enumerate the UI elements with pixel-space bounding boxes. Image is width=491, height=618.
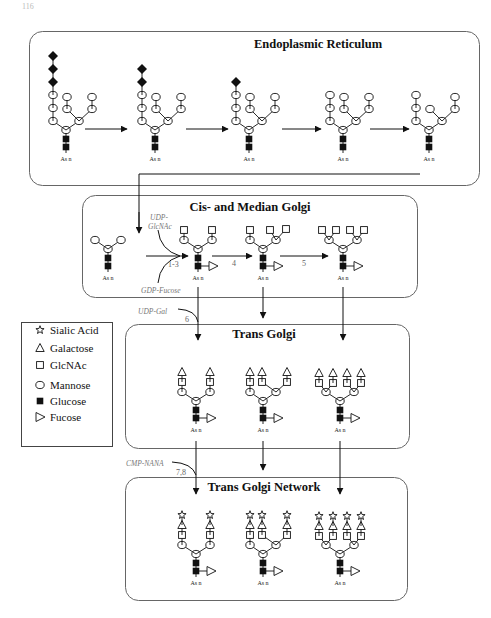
legend-label: GlcNAc (50, 359, 87, 371)
asn-label: As n (257, 275, 268, 281)
fucose-icon (207, 567, 216, 576)
glcnac-icon (283, 226, 290, 233)
mannose-icon (117, 236, 125, 243)
glucose-icon (152, 144, 159, 151)
glycan: As n (246, 226, 290, 281)
glucose-icon (193, 568, 200, 575)
fucose-icon (274, 262, 283, 271)
fucose-icon (354, 262, 363, 271)
mannose-icon (152, 93, 160, 100)
mannose-icon (426, 105, 434, 112)
galactose-icon (329, 369, 337, 377)
sialic-acid-icon (246, 511, 254, 519)
glucose-icon (152, 136, 159, 143)
glcnac-icon (181, 227, 188, 234)
sialic-acid-icon (283, 511, 291, 519)
udp-glcnac-label-1: UDP- (150, 213, 168, 222)
legend-label: Fucose (50, 411, 81, 423)
fucose-icon (351, 414, 360, 423)
glucose-icon (105, 255, 112, 262)
asn-label: As n (102, 275, 113, 281)
glucose-icon (37, 398, 44, 405)
asn-label: As n (337, 275, 348, 281)
asn-label: As n (190, 427, 201, 433)
sialic-acid-icon (36, 326, 44, 334)
galactose-icon (343, 369, 351, 377)
glycan: As n (178, 511, 216, 586)
glcnac-icon (361, 227, 368, 234)
mannose-icon (451, 93, 459, 100)
legend-item: Fucose (36, 411, 81, 423)
trans-golgi-title: Trans Golgi (232, 327, 296, 341)
mannose-icon (365, 93, 373, 100)
udp-glcnac-label-2: GlcNAc (148, 222, 172, 231)
asn-label: As n (334, 427, 345, 433)
step-1-3-label: 1-3 (168, 260, 179, 269)
galactose-icon (258, 368, 266, 376)
mannose-icon (246, 93, 254, 100)
glucose-icon (193, 415, 200, 422)
step-7-8-label: 7,8 (176, 468, 186, 477)
glycan: As n (315, 369, 365, 434)
cis-golgi-title: Cis- and Median Golgi (189, 200, 311, 214)
step-5-label: 5 (302, 259, 306, 268)
fucose-icon (351, 567, 360, 576)
fucose-icon (274, 414, 283, 423)
glycosylation-pathway-diagram: Endoplasmic Reticulum Cis- and Median Go… (0, 0, 491, 618)
asn-label: As n (257, 427, 268, 433)
glucose-icon (340, 255, 347, 262)
glycan: As n (326, 91, 373, 162)
asn-label: As n (337, 156, 348, 162)
glucose-icon (260, 568, 267, 575)
cmp-nana-label: CMP-NANA (126, 459, 164, 468)
glucose-icon (195, 255, 202, 262)
glycan: As n (137, 64, 185, 162)
mannose-icon (412, 91, 420, 98)
asn-label: As n (423, 156, 434, 162)
sialic-acid-icon (178, 511, 186, 519)
galactose-icon (357, 369, 365, 377)
glucose-icon (260, 263, 267, 270)
galactose-icon (246, 368, 254, 376)
sialic-acid-icon (343, 512, 351, 520)
asn-label: As n (149, 156, 160, 162)
glucose-icon (337, 415, 344, 422)
glycan: As n (315, 512, 365, 586)
sialic-acid-icon (315, 512, 323, 520)
step-6-label: 6 (185, 315, 189, 324)
sialic-acid-icon (357, 512, 365, 520)
glycan: As n (319, 227, 368, 281)
fucose-icon (207, 414, 216, 423)
glycan: As n (246, 511, 291, 586)
legend-item: Glucose (37, 395, 86, 407)
mannose-icon (326, 91, 334, 98)
glucose-icon (260, 415, 267, 422)
glcnac-icon (247, 227, 254, 234)
legend-label: Glucose (50, 395, 86, 407)
asn-label: As n (243, 156, 254, 162)
glcnac-icon (347, 227, 354, 234)
er-title: Endoplasmic Reticulum (254, 37, 383, 51)
glcnac-icon (267, 227, 274, 234)
legend-item: Galactose (36, 342, 94, 354)
galactose-icon (178, 368, 186, 376)
tgn-title: Trans Golgi Network (208, 480, 321, 494)
mannose-icon (340, 93, 348, 100)
glucose-icon (337, 407, 344, 414)
glcnac-icon (319, 227, 326, 234)
asn-label: As n (60, 156, 71, 162)
glucose-diamond-icon (231, 77, 241, 87)
galactose-icon (283, 368, 291, 376)
glycan: As n (180, 227, 218, 281)
fucose-icon (274, 567, 283, 576)
glucose-icon (426, 144, 433, 151)
asn-label: As n (192, 275, 203, 281)
sialic-acid-icon (329, 512, 337, 520)
glucose-icon (246, 144, 253, 151)
glucose-icon (260, 407, 267, 414)
glycan: As n (48, 51, 96, 162)
gdp-fucose-label: GDP-Fucose (141, 286, 181, 295)
glucose-icon (63, 144, 70, 151)
galactose-icon (315, 369, 323, 377)
glcnac-icon (209, 227, 216, 234)
